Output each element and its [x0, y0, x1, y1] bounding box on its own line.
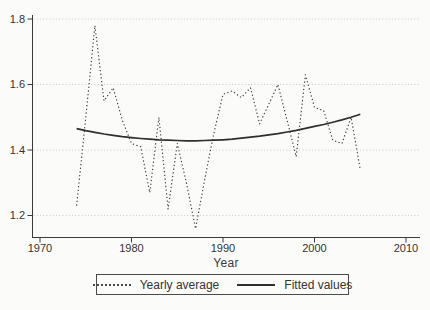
legend-item-yearly-average: Yearly average	[93, 278, 220, 292]
legend-label-yearly-average: Yearly average	[140, 278, 220, 292]
x-tick-label: 1970	[28, 242, 52, 254]
y-tick-label: 1.8	[10, 13, 25, 25]
chart: 1.21.41.61.819701980199020002010 Year Ye…	[0, 0, 430, 310]
x-tick-label: 1980	[119, 242, 143, 254]
x-tick-label: 2000	[302, 242, 326, 254]
x-axis-title: Year	[32, 256, 420, 270]
y-tick-label: 1.4	[10, 144, 25, 156]
y-tick-label: 1.6	[10, 78, 25, 90]
y-tick-label: 1.2	[10, 209, 25, 221]
x-tick-label: 2010	[394, 242, 418, 254]
legend-item-fitted-values: Fitted values	[237, 278, 352, 292]
x-tick-label: 1990	[211, 242, 235, 254]
series-fitted-values	[77, 114, 361, 141]
dotted-line-swatch-icon	[93, 284, 131, 286]
legend: Yearly average Fitted values	[96, 274, 349, 295]
solid-line-swatch-icon	[237, 284, 275, 286]
legend-label-fitted-values: Fitted values	[284, 278, 352, 292]
series-yearly-average	[77, 26, 361, 229]
